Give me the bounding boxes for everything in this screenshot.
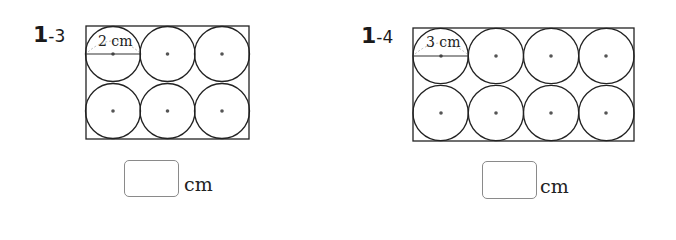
center-dot <box>220 109 224 113</box>
center-dot <box>604 111 608 115</box>
problem-subnumber: -4 <box>376 27 393 47</box>
problem-number: 1 <box>361 23 376 48</box>
center-dot <box>166 109 170 113</box>
center-dot <box>220 52 224 56</box>
center-dot <box>604 54 608 58</box>
problem-label-1-4: 1-4 <box>361 23 393 48</box>
center-dot <box>439 111 443 115</box>
center-dot <box>166 52 170 56</box>
answer-input[interactable] <box>124 160 179 197</box>
answer-input[interactable] <box>482 161 537 199</box>
center-dot <box>111 109 115 113</box>
unit-label: cm <box>540 175 569 197</box>
center-dot <box>494 111 498 115</box>
diameter-label: 2 cm <box>98 33 132 49</box>
diameter-label: 3 cm <box>426 34 460 50</box>
center-dot <box>494 54 498 58</box>
center-dot <box>549 54 553 58</box>
center-dot <box>549 111 553 115</box>
unit-label: cm <box>184 173 213 195</box>
